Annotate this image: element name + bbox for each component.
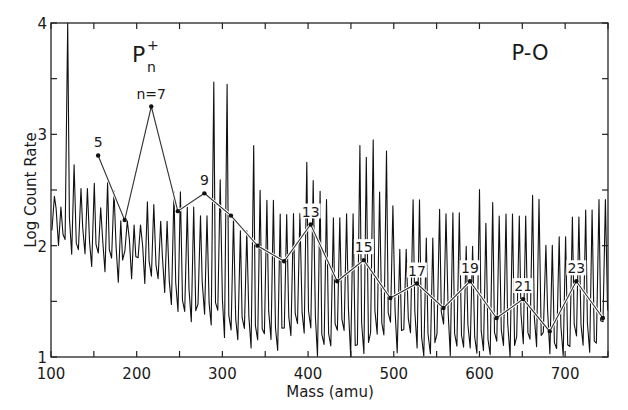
svg-text:n: n: [147, 59, 156, 75]
cluster-size-label: 5: [94, 134, 103, 150]
envelope-point: [335, 279, 339, 283]
svg-text:+: +: [147, 37, 159, 53]
x-tick-label: 400: [294, 365, 323, 383]
envelope-point: [521, 297, 525, 301]
cluster-size-label: 13: [302, 204, 320, 220]
envelope-point: [149, 104, 153, 108]
envelope-point: [362, 258, 366, 262]
envelope-point: [441, 306, 445, 310]
x-tick-label: 700: [551, 365, 580, 383]
mass-spectrum-chart: 5n=79131517192123 1002003004005006007001…: [0, 0, 628, 410]
envelope-point: [122, 218, 126, 222]
x-tick-label: 100: [37, 365, 66, 383]
cluster-size-label: 9: [200, 172, 209, 188]
envelope-point: [388, 296, 392, 300]
envelope-point: [96, 153, 100, 157]
envelope-point: [494, 316, 498, 320]
spectrum-trace: [52, 23, 608, 357]
envelope-point: [176, 209, 180, 213]
envelope-point: [308, 222, 312, 226]
y-tick-label: 4: [37, 15, 47, 33]
envelope-point: [282, 259, 286, 263]
sample-label: P-O: [512, 41, 549, 65]
envelope-point: [202, 191, 206, 195]
cluster-size-label: n=7: [137, 86, 167, 102]
cluster-size-label: 15: [355, 239, 373, 255]
x-tick-label: 600: [465, 365, 494, 383]
envelope-point: [601, 316, 605, 320]
cluster-size-label: 21: [514, 278, 532, 294]
cluster-size-label: 19: [461, 260, 479, 276]
envelope-point: [468, 279, 472, 283]
envelope-line: 5n=79131517192123: [93, 86, 605, 334]
y-tick-label: 1: [37, 349, 47, 367]
envelope-point: [415, 281, 419, 285]
y-axis-label: Log Count Rate: [22, 132, 40, 247]
species-annotation: P + n: [132, 37, 159, 75]
envelope-point: [229, 213, 233, 217]
x-tick-label: 200: [122, 365, 151, 383]
x-axis-label: Mass (amu): [286, 383, 374, 401]
envelope-point: [255, 243, 259, 247]
tick-labels: 1002003004005006007001234: [37, 15, 580, 383]
svg-text:P: P: [132, 42, 145, 67]
cluster-size-label: 17: [408, 263, 426, 279]
x-tick-label: 300: [208, 365, 237, 383]
envelope-point: [548, 329, 552, 333]
envelope-point: [574, 279, 578, 283]
x-tick-label: 500: [379, 365, 408, 383]
cluster-size-label: 23: [567, 260, 585, 276]
